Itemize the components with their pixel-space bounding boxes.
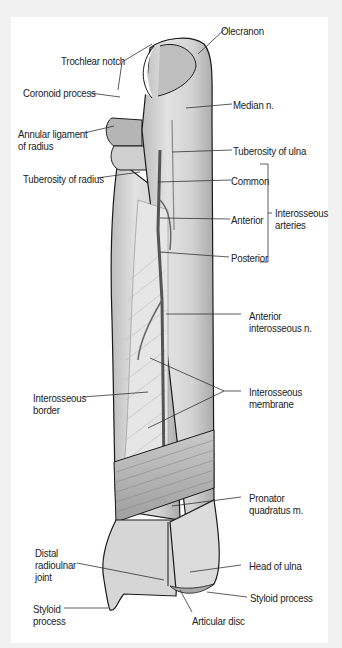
label-line: Interosseous	[275, 207, 328, 219]
label-line: Annular ligament	[18, 128, 88, 140]
label-interosseous-border: Interosseous border	[33, 392, 86, 416]
label-line: Interosseous	[33, 392, 86, 404]
label-line: Interosseous	[249, 386, 302, 398]
label-line: arteries	[275, 219, 328, 231]
label-line: Anterior	[249, 310, 312, 322]
label-line: Pronator	[249, 492, 303, 504]
label-median-n: Median n.	[233, 99, 274, 111]
label-styloid-process-ulna: Styloid process	[250, 592, 313, 604]
label-line: process	[33, 615, 66, 627]
label-interosseous-membrane: Interosseous membrane	[249, 386, 302, 410]
label-styloid-process-radius: Styloid process	[33, 603, 66, 627]
label-line: quadratus m.	[249, 504, 303, 516]
label-coronoid-process: Coronoid process	[23, 87, 96, 99]
label-distal-radioulnar-joint: Distal radioulnar joint	[35, 547, 76, 583]
label-interosseous-arteries: Interosseous arteries	[275, 207, 328, 231]
label-tuberosity-of-radius: Tuberosity of radius	[23, 173, 104, 185]
label-anterior-interosseous-n: Anterior interosseous n.	[249, 310, 312, 334]
label-line: radioulnar	[35, 559, 76, 571]
label-tuberosity-of-ulna: Tuberosity of ulna	[233, 145, 306, 157]
label-articular-disc: Articular disc	[192, 615, 245, 627]
label-trochlear-notch: Trochlear notch	[61, 55, 125, 67]
label-line: interosseous n.	[249, 322, 312, 334]
label-anterior: Anterior	[231, 214, 263, 226]
label-head-of-ulna: Head of ulna	[249, 560, 302, 572]
label-olecranon: Olecranon	[221, 25, 264, 37]
label-posterior: Posterior	[231, 252, 268, 264]
label-line: border	[33, 404, 86, 416]
label-annular-ligament: Annular ligament of radius	[18, 128, 88, 152]
label-line: of radius	[18, 140, 88, 152]
annular-ligament	[106, 118, 142, 146]
label-common: Common	[231, 175, 269, 187]
label-line: joint	[35, 571, 76, 583]
label-line: Distal	[35, 547, 76, 559]
label-pronator-quadratus: Pronator quadratus m.	[249, 492, 303, 516]
label-line: Styloid	[33, 603, 66, 615]
label-line: membrane	[249, 398, 302, 410]
